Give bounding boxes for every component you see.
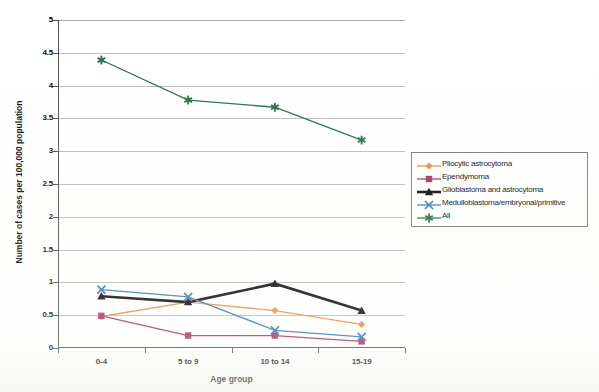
- legend-marker-triangle-icon: [416, 184, 442, 196]
- legend-marker-cross-icon: [416, 197, 442, 209]
- series-line: [101, 60, 361, 140]
- series-all: [98, 56, 366, 145]
- legend-marker-diamond-icon: [416, 158, 442, 170]
- data-point-diamond: [358, 321, 365, 328]
- legend-marker-square-icon: [416, 171, 442, 183]
- line-chart: Number of cases per 100,000 population 0…: [0, 0, 599, 392]
- legend-item-ependymoma[interactable]: Ependymoma: [416, 170, 584, 183]
- legend-item-label: Glioblastoma and astrocytoma: [442, 186, 543, 194]
- legend-item-medulloblastoma-embryonal-primitive[interactable]: Medulloblastoma/embryonal/primitive: [416, 196, 584, 209]
- x-axis-tick-label: 15-19: [322, 358, 402, 366]
- series-line: [101, 290, 361, 337]
- data-point-asterisk: [358, 136, 366, 145]
- legend-item-label: Ependymoma: [442, 173, 489, 181]
- x-axis-title: Age group: [58, 374, 405, 384]
- data-point-square: [98, 313, 104, 319]
- y-axis-tick-label: 0: [13, 344, 53, 352]
- data-point-diamond: [425, 162, 432, 169]
- y-axis-tick-label: 4.5: [13, 49, 53, 57]
- y-axis-tick-label: 3.5: [13, 114, 53, 122]
- y-axis-tick-label: 4: [13, 82, 53, 90]
- x-axis-tick-label: 10 to 14: [235, 358, 315, 366]
- y-axis-tick-label: 2.5: [13, 180, 53, 188]
- y-axis-tick-label: 0.5: [13, 311, 53, 319]
- series-glioblastoma-and-astrocytoma: [97, 280, 366, 314]
- y-axis-tick-label: 3: [13, 147, 53, 155]
- y-axis-tick-label: 5: [13, 16, 53, 24]
- legend-item-all[interactable]: All: [416, 209, 584, 222]
- x-axis-tick-mark: [405, 348, 406, 353]
- data-point-square: [185, 332, 191, 338]
- data-point-square: [426, 175, 432, 181]
- x-axis-tick-label: 0-4: [61, 358, 141, 366]
- chart-legend: Pilocytic astrocytoma Ependymoma Gliobla…: [411, 152, 588, 227]
- series-ependymoma: [98, 313, 365, 345]
- legend-item-glioblastoma-and-astrocytoma[interactable]: Glioblastoma and astrocytoma: [416, 183, 584, 196]
- y-axis-tick-label: 1.5: [13, 246, 53, 254]
- legend-item-pilocytic-astrocytoma[interactable]: Pilocytic astrocytoma: [416, 157, 584, 170]
- legend-item-label: All: [442, 212, 450, 220]
- x-axis-tick-label: 5 to 9: [148, 358, 228, 366]
- series-line: [101, 316, 361, 342]
- legend-marker-asterisk-icon: [416, 210, 442, 222]
- series-layer: [58, 20, 405, 348]
- data-point-asterisk: [98, 56, 106, 65]
- x-axis-tick-mark: [318, 348, 319, 353]
- y-axis-tick-label: 2: [13, 213, 53, 221]
- legend-item-label: Pilocytic astrocytoma: [442, 160, 512, 168]
- y-axis-tick-label: 1: [13, 278, 53, 286]
- x-axis-tick-mark: [145, 348, 146, 353]
- legend-item-label: Medulloblastoma/embryonal/primitive: [442, 199, 565, 207]
- x-axis-tick-mark: [232, 348, 233, 353]
- x-axis-tick-mark: [58, 348, 59, 353]
- data-point-diamond: [271, 307, 278, 314]
